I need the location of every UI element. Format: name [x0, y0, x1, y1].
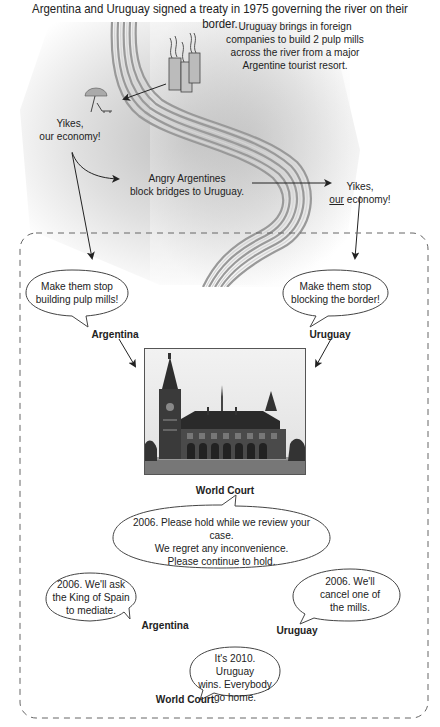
bubble-line: 2006. We'll ask	[51, 578, 130, 591]
argentina-2006-bubble-text: 2006. We'll ask the King of Spain to med…	[51, 578, 130, 617]
bubble-line: building pulp mills!	[32, 293, 122, 306]
bubble-line: the King of Spain	[51, 591, 130, 604]
court-bubble-text: 2006. Please hold while we review your c…	[126, 516, 317, 568]
uruguay-2006-bubble-text: 2006. We'll cancel one of the mills.	[306, 575, 394, 614]
bubble-line: the mills.	[306, 601, 394, 614]
uruguay-reaction-line: our economy!	[325, 193, 395, 206]
bubble-line: We regret any inconvenience.	[126, 542, 317, 555]
blockade-caption-line: Angry Argentines	[130, 172, 244, 185]
court-label: World Court	[185, 484, 264, 497]
argentina-label: Argentina	[84, 328, 146, 341]
argentina-reaction-line: Yikes,	[26, 117, 114, 130]
uruguay-label: Uruguay	[304, 328, 357, 341]
arrow-argentina-to-court	[119, 339, 135, 366]
mills-caption-line: across the river from a major	[225, 46, 366, 59]
uruguay-reaction-rest: economy!	[344, 193, 391, 205]
uruguay-2006-label: Uruguay	[271, 624, 324, 637]
bubble-line: blocking the border!	[289, 293, 381, 306]
mills-caption: Uruguay brings in foreign companies to b…	[225, 20, 366, 72]
argentina-bubble-text: Make them stop building pulp mills!	[32, 280, 122, 306]
argentina-reaction-line: our economy!	[26, 130, 114, 143]
bubble-line: Please continue to hold.	[126, 555, 317, 568]
arrow-uruguay-to-court	[316, 339, 331, 366]
mills-caption-line: Argentine tourist resort.	[225, 59, 366, 72]
bubble-line: to mediate.	[51, 604, 130, 617]
court-2010-label: World Court	[150, 693, 220, 706]
blockade-caption: Angry Argentines block bridges to Urugua…	[130, 172, 244, 198]
bubble-line: Make them stop	[32, 280, 122, 293]
bubble-line: 2006. We'll	[306, 575, 394, 588]
bubble-line: It's 2010. Uruguay	[195, 652, 274, 678]
mills-caption-line: companies to build 2 pulp mills	[225, 33, 366, 46]
bubble-line: wins. Everybody	[195, 678, 274, 691]
peace-palace-illustration	[145, 349, 305, 474]
world-court-building-photo	[144, 348, 306, 475]
bubble-line: 2006. Please hold while we review your c…	[126, 516, 317, 542]
bubble-line: Make them stop	[289, 280, 381, 293]
blockade-caption-line: block bridges to Uruguay.	[130, 185, 244, 198]
mills-caption-line: Uruguay brings in foreign	[225, 20, 366, 33]
argentina-2006-label: Argentina	[139, 619, 192, 632]
argentina-reaction: Yikes, our economy!	[26, 117, 114, 143]
bubble-line: cancel one of	[306, 588, 394, 601]
uruguay-reaction-line: Yikes,	[325, 180, 395, 193]
uruguay-bubble-text: Make them stop blocking the border!	[289, 280, 381, 306]
uruguay-reaction: Yikes, our economy!	[325, 180, 395, 206]
emphasis-our: our	[329, 193, 344, 205]
